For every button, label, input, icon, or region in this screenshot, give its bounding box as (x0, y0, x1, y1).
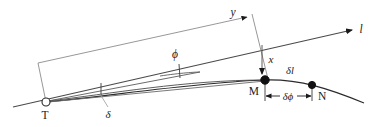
label-delta-l: δl (286, 65, 294, 76)
left-vertical-stub (38, 63, 46, 102)
phi-ray-line (48, 72, 200, 101)
point-N-marker (308, 81, 315, 88)
label-phi: ϕ (172, 48, 178, 61)
right-vertical-drop (252, 14, 268, 79)
label-delta-phi: δϕ (283, 91, 294, 102)
label-delta: δ (105, 108, 111, 120)
point-T-marker (42, 98, 50, 106)
l-axis-line (13, 30, 352, 107)
label-l: l (359, 23, 362, 35)
diagram-canvas: y x l ϕ δ δl δϕ T M N (0, 0, 387, 127)
label-point-N: N (318, 90, 327, 102)
phi-reference-ray (48, 72, 200, 101)
main-curve-path (46, 80, 364, 103)
label-point-T: T (41, 109, 48, 121)
trajectory-curve (46, 80, 364, 103)
y-construction (38, 14, 268, 102)
label-x: x (268, 53, 274, 65)
y-measure-line (38, 17, 247, 63)
geometry-diagram: y x l ϕ δ δl δϕ T M N (0, 0, 387, 127)
point-M-marker (261, 76, 269, 84)
baseline-through-T (13, 30, 352, 107)
label-point-M: M (249, 85, 259, 97)
label-y: y (229, 6, 236, 19)
